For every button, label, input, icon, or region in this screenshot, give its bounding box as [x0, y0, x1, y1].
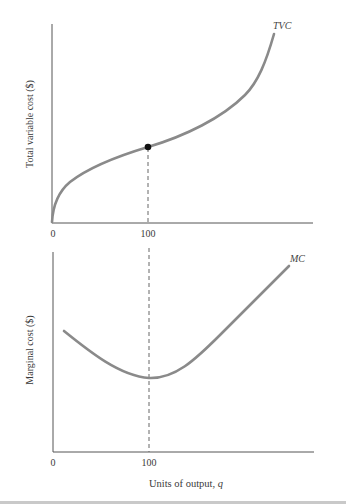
tvc-chart: TVC 0 100 Total variable cost ($) — [24, 20, 313, 239]
mc-tick-100: 100 — [142, 457, 157, 468]
tvc-curve-label: TVC — [273, 20, 292, 31]
inflection-point-dot — [145, 144, 152, 151]
mc-tick-0: 0 — [51, 457, 56, 468]
mc-y-axis-label: Marginal cost ($) — [24, 315, 36, 384]
mc-chart: MC 0 100 Marginal cost ($) Units of outp… — [24, 248, 314, 489]
figure: TVC 0 100 Total variable cost ($) MC 0 1… — [0, 0, 346, 504]
x-axis-label-var: q — [218, 478, 223, 489]
tvc-tick-0: 0 — [51, 228, 56, 239]
tvc-tick-100: 100 — [141, 228, 156, 239]
x-axis-label-text: Units of output, — [149, 478, 218, 489]
mc-curve — [64, 266, 289, 378]
mc-curve-label: MC — [289, 253, 305, 264]
tvc-y-axis-label: Total variable cost ($) — [24, 80, 36, 168]
x-axis-label: Units of output, q — [149, 478, 223, 489]
tvc-curve — [52, 34, 274, 222]
